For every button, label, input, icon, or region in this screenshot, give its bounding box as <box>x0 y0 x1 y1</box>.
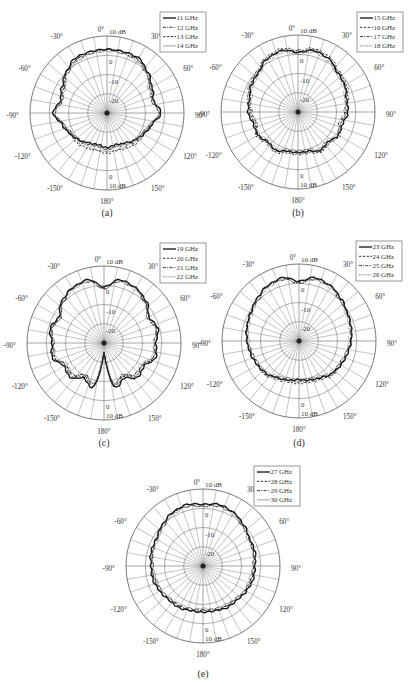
radial-max-label-top: 10 dB <box>300 27 317 35</box>
legend: 15 GHz16 GHz17 GHz18 GHz <box>357 12 403 52</box>
legend-label: 30 GHz <box>271 496 293 503</box>
angle-label: -120° <box>206 152 222 160</box>
radial-max-label-bottom: 10 dB <box>300 181 317 189</box>
panel-caption: (c) <box>98 437 109 449</box>
angle-label: -60° <box>15 295 28 303</box>
angle-label: 90° <box>291 565 301 573</box>
angle-label: -120° <box>12 383 28 391</box>
legend-label: 24 GHz <box>373 253 395 260</box>
legend-label: 26 GHz <box>373 271 395 278</box>
angle-label: -120° <box>15 153 31 161</box>
radial-max-label-top: 10 dB <box>106 258 123 266</box>
angle-label: 150° <box>247 638 261 646</box>
radial-tick-label: 0 <box>301 286 305 293</box>
legend-label: 21 GHz <box>177 264 199 271</box>
radial-tick-label: -10 <box>300 77 310 84</box>
angle-label: -90° <box>7 112 20 120</box>
legend: 23 GHz24 GHz25 GHz26 GHz <box>356 241 402 281</box>
legend-label: 13 GHz <box>177 33 199 40</box>
radial-max-label-top: 10 dB <box>205 481 222 489</box>
panel-caption: (a) <box>101 207 112 219</box>
radial-tick-label: 0 <box>300 57 304 64</box>
angle-label: -30° <box>48 263 61 271</box>
legend-label: 20 GHz <box>177 255 199 262</box>
radial-tick-label: -20 <box>109 97 119 104</box>
angle-label: -30° <box>243 261 256 269</box>
angle-label: 60° <box>180 295 190 303</box>
legend-label: 14 GHz <box>177 42 199 49</box>
radial-tick-label: -20 <box>300 96 310 103</box>
angle-label: -90° <box>198 111 211 119</box>
angle-label: 150° <box>343 413 357 421</box>
legend-label: 17 GHz <box>374 33 396 40</box>
angle-label: 120° <box>180 383 194 391</box>
angle-label: -60° <box>18 65 31 73</box>
angle-label: 60° <box>279 518 289 526</box>
legend-label: 18 GHz <box>374 42 396 49</box>
angle-label: 60° <box>375 293 385 301</box>
radial-max-label-top: 10 dB <box>109 28 126 36</box>
polar-panel-b: 0°30°60°90°120°150°180°-150°-120°-90°-60… <box>198 12 403 219</box>
angle-label: -150° <box>238 184 254 192</box>
radial-tick-label: -20 <box>205 550 215 557</box>
legend-label: 12 GHz <box>177 24 199 31</box>
angle-label: 150° <box>151 185 165 193</box>
radial-tick-label: 0 <box>106 288 110 295</box>
angle-label: -60° <box>210 293 223 301</box>
polar-panel-a: 0°30°60°90°120°150°180°-150°-120°-90°-60… <box>7 12 206 219</box>
legend-label: 19 GHz <box>177 245 199 252</box>
angle-label: 60° <box>183 65 193 73</box>
radial-tick-label-bottom: 0 <box>205 626 209 633</box>
angle-label: 30° <box>151 33 161 41</box>
radial-tick-label: -10 <box>106 308 116 315</box>
radial-max-label-bottom: 10 dB <box>109 182 126 190</box>
angle-label: 0° <box>194 479 201 487</box>
angle-label: 180° <box>100 198 114 206</box>
angle-label: 90° <box>386 111 396 119</box>
radial-max-label-top: 10 dB <box>301 256 318 264</box>
polar-grid <box>221 35 375 189</box>
angle-label: 180° <box>97 428 111 436</box>
radial-tick-label: -10 <box>301 306 311 313</box>
angle-label: 0° <box>98 26 105 34</box>
polar-panel-e: 0°30°60°90°120°150°180°-150°-120°-90°-60… <box>103 466 302 680</box>
radial-tick-label: -20 <box>106 327 116 334</box>
angle-label: -120° <box>111 606 127 614</box>
radial-tick-label: -10 <box>205 531 215 538</box>
angle-label: -90° <box>4 342 17 350</box>
angle-label: 30° <box>148 263 158 271</box>
angle-label: 90° <box>387 340 397 348</box>
angle-label: -120° <box>207 381 223 389</box>
angle-label: 120° <box>279 606 293 614</box>
legend: 19 GHz20 GHz21 GHz22 GHz <box>160 243 206 283</box>
radial-max-label-bottom: 10 dB <box>205 635 222 643</box>
angle-label: -90° <box>199 340 212 348</box>
panel-caption: (b) <box>292 207 304 219</box>
angle-label: 60° <box>374 64 384 72</box>
angle-label: 30° <box>343 261 353 269</box>
legend: 11 GHz12 GHz13 GHz14 GHz <box>160 12 206 52</box>
angle-label: 0° <box>289 25 296 33</box>
radial-tick-label-bottom: 0 <box>109 173 113 180</box>
angle-label: 180° <box>291 197 305 205</box>
panel-caption: (d) <box>293 437 305 449</box>
polar-grid <box>222 264 376 418</box>
angle-label: -150° <box>44 415 60 423</box>
angle-label: -60° <box>209 64 222 72</box>
legend-label: 16 GHz <box>374 24 396 31</box>
angle-label: 30° <box>342 32 352 40</box>
polar-figure: 0°30°60°90°120°150°180°-150°-120°-90°-60… <box>0 0 418 684</box>
legend-label: 28 GHz <box>271 478 293 485</box>
angle-label: 150° <box>148 415 162 423</box>
angle-label: -150° <box>239 413 255 421</box>
legend-label: 15 GHz <box>374 14 396 21</box>
angle-label: -30° <box>242 32 255 40</box>
angle-label: 0° <box>290 254 297 262</box>
panel-caption: (e) <box>197 668 208 680</box>
angle-label: 120° <box>183 153 197 161</box>
polar-panel-d: 0°30°60°90°120°150°180°-150°-120°-90°-60… <box>199 241 402 449</box>
radial-max-label-bottom: 10 dB <box>106 412 123 420</box>
legend-label: 11 GHz <box>177 14 198 21</box>
radial-tick-label-bottom: 0 <box>301 401 305 408</box>
legend-label: 27 GHz <box>271 468 293 475</box>
